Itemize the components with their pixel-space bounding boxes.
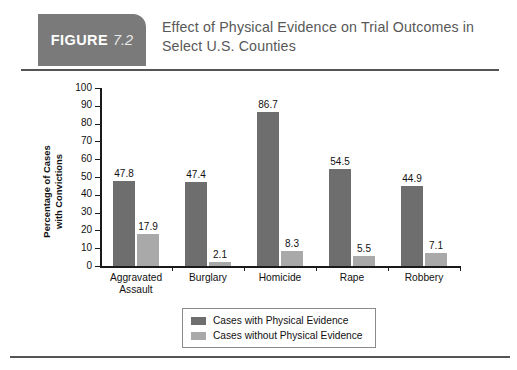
- y-axis-tick-label: 100: [75, 82, 92, 93]
- x-axis-group-label: Robbery: [388, 272, 460, 284]
- x-axis-line: [100, 266, 460, 268]
- bar-value-label: 54.5: [330, 156, 349, 167]
- figure-badge-word: FIGURE: [51, 32, 108, 48]
- legend-swatch: [191, 317, 206, 325]
- legend-item: Cases without Physical Evidence: [191, 328, 363, 343]
- y-axis-tick: 0: [95, 266, 100, 267]
- y-axis-tick-label: 30: [81, 206, 92, 217]
- bar: 47.4: [185, 182, 207, 266]
- y-axis-tick: 30: [95, 213, 100, 214]
- x-axis-tick: [388, 266, 389, 271]
- header-divider: [21, 69, 499, 71]
- y-axis-tick: 90: [95, 106, 100, 107]
- chart-legend: Cases with Physical EvidenceCases withou…: [182, 308, 376, 348]
- y-axis-tick-label: 80: [81, 117, 92, 128]
- y-axis-tick-label: 10: [81, 242, 92, 253]
- bar: 47.8: [113, 181, 135, 266]
- plot-area: 1009080706050403020100 47.817.947.42.186…: [100, 88, 460, 266]
- bar-value-label: 47.4: [186, 169, 205, 180]
- y-axis-tick: 50: [95, 177, 100, 178]
- figure-number-badge: FIGURE 7.2: [38, 14, 146, 66]
- legend-swatch: [191, 332, 206, 340]
- footer-divider: [10, 356, 510, 358]
- y-axis-tick-label: 40: [81, 188, 92, 199]
- y-axis-tick: 70: [95, 141, 100, 142]
- figure-badge-number: 7.2: [113, 32, 133, 48]
- bar: 17.9: [137, 234, 159, 266]
- x-axis-group-label: Burglary: [172, 272, 244, 284]
- y-axis-tick: 40: [95, 195, 100, 196]
- bar: 8.3: [281, 251, 303, 266]
- chart-container: Percentage of Cases with Convictions 100…: [0, 80, 517, 350]
- bar: 7.1: [425, 253, 447, 266]
- legend-label: Cases with Physical Evidence: [213, 315, 348, 326]
- bar-value-label: 8.3: [285, 238, 299, 249]
- y-axis-tick-label: 0: [86, 260, 92, 271]
- bar-value-label: 86.7: [258, 99, 277, 110]
- bar-value-label: 5.5: [357, 243, 371, 254]
- y-axis-tick-label: 20: [81, 224, 92, 235]
- bar: 2.1: [209, 262, 231, 266]
- y-axis-tick: 60: [95, 159, 100, 160]
- bar-value-label: 2.1: [213, 249, 227, 260]
- figure-title: Effect of Physical Evidence on Trial Out…: [162, 18, 502, 56]
- legend-item: Cases with Physical Evidence: [191, 313, 363, 328]
- x-axis-group-label: Rape: [316, 272, 388, 284]
- y-axis-tick-label: 50: [81, 171, 92, 182]
- bar-value-label: 17.9: [138, 221, 157, 232]
- x-axis-group-label: Aggravated Assault: [100, 272, 172, 296]
- figure-header: FIGURE 7.2 Effect of Physical Evidence o…: [0, 0, 517, 76]
- x-axis-group-label: Homicide: [244, 272, 316, 284]
- bar: 5.5: [353, 256, 375, 266]
- bar-value-label: 44.9: [402, 173, 421, 184]
- y-axis-tick: 20: [95, 230, 100, 231]
- bar-value-label: 47.8: [114, 168, 133, 179]
- y-axis-tick: 10: [95, 248, 100, 249]
- x-axis-tick: [172, 266, 173, 271]
- legend-label: Cases without Physical Evidence: [213, 330, 363, 341]
- y-axis-tick: 100: [95, 88, 100, 89]
- bar: 44.9: [401, 186, 423, 266]
- bar-value-label: 7.1: [429, 240, 443, 251]
- y-axis-tick-label: 70: [81, 135, 92, 146]
- bar: 54.5: [329, 169, 351, 266]
- y-axis-title: Percentage of Cases with Convictions: [41, 102, 64, 282]
- y-axis-tick-label: 90: [81, 99, 92, 110]
- bar: 86.7: [257, 112, 279, 266]
- y-axis-line: [100, 88, 102, 266]
- x-axis-tick: [244, 266, 245, 271]
- x-axis-tick: [460, 266, 461, 271]
- y-axis-tick-label: 60: [81, 153, 92, 164]
- y-axis-tick: 80: [95, 124, 100, 125]
- x-axis-tick: [316, 266, 317, 271]
